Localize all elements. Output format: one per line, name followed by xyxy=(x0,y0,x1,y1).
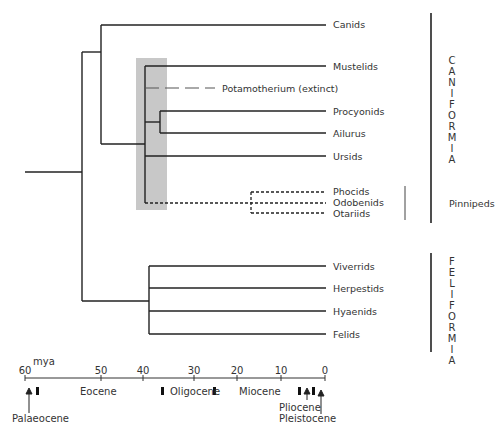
tick-30: 30 xyxy=(188,365,201,376)
svg-text:M: M xyxy=(448,132,457,143)
svg-text:F: F xyxy=(449,99,455,110)
pinniped-branches xyxy=(145,192,326,213)
taxon-label-viverrids: Viverrids xyxy=(333,261,375,272)
taxon-label-canids: Canids xyxy=(333,19,365,30)
epoch-pleistocene: Pleistocene xyxy=(279,413,336,424)
taxon-label-phocids: Phocids xyxy=(333,186,369,197)
taxon-label-ailurus: Ailurus xyxy=(333,128,366,139)
tick-40: 40 xyxy=(137,365,150,376)
svg-text:I: I xyxy=(451,289,454,300)
svg-text:I: I xyxy=(451,88,454,99)
svg-text:A: A xyxy=(449,66,456,77)
feliformia-label: F E L I F O R M I A xyxy=(448,256,457,366)
taxon-label-herpestids: Herpestids xyxy=(333,283,384,294)
tick-10: 10 xyxy=(275,365,288,376)
pinnipeds-label: Pinnipeds xyxy=(449,198,495,209)
svg-text:I: I xyxy=(451,143,454,154)
taxon-label-mustelids: Mustelids xyxy=(333,61,378,72)
tick-20: 20 xyxy=(231,365,244,376)
taxon-label-ursids: Ursids xyxy=(333,151,362,162)
caniformia-label: C A N I F O R M I A xyxy=(448,55,457,165)
svg-text:O: O xyxy=(448,110,456,121)
taxon-label-felids: Felids xyxy=(333,329,360,340)
svg-text:L: L xyxy=(449,278,455,289)
radiation-highlight-box xyxy=(136,58,167,210)
phylogeny-diagram: Canids Mustelids Potamotherium (extinct)… xyxy=(0,0,504,438)
svg-text:R: R xyxy=(449,121,456,132)
svg-text:A: A xyxy=(449,154,456,165)
taxon-label-hyaenids: Hyaenids xyxy=(333,306,377,317)
timeline-unit: mya xyxy=(33,356,55,367)
epoch-miocene: Miocene xyxy=(239,386,281,397)
epoch-palaeocene: Palaeocene xyxy=(12,413,69,424)
svg-text:E: E xyxy=(449,267,455,278)
svg-text:R: R xyxy=(449,322,456,333)
svg-text:O: O xyxy=(448,311,456,322)
svg-text:C: C xyxy=(449,55,456,66)
svg-text:N: N xyxy=(448,77,455,88)
taxon-label-odobenids: Odobenids xyxy=(333,197,384,208)
tick-50: 50 xyxy=(95,365,108,376)
epoch-pliocene: Pliocene xyxy=(279,402,321,413)
taxon-label-procyonids: Procyonids xyxy=(333,106,384,117)
svg-text:I: I xyxy=(451,344,454,355)
tree-branches xyxy=(25,25,326,334)
timeline: mya 60 50 40 30 20 10 0 xyxy=(12,356,336,424)
tick-0: 0 xyxy=(322,365,328,376)
epoch-eocene: Eocene xyxy=(80,386,117,397)
epoch-oligocene: Oligocene xyxy=(170,386,220,397)
taxon-label-potamotherium: Potamotherium (extinct) xyxy=(222,83,338,94)
svg-text:F: F xyxy=(449,256,455,267)
svg-text:A: A xyxy=(449,355,456,366)
svg-text:M: M xyxy=(448,333,457,344)
svg-text:F: F xyxy=(449,300,455,311)
taxon-label-otariids: Otariids xyxy=(333,208,370,219)
tick-60: 60 xyxy=(19,365,32,376)
